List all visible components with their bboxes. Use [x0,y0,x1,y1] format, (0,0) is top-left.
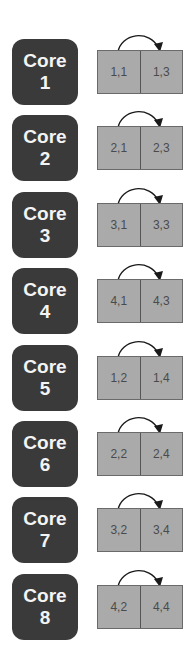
core-badge: Core 2 [12,115,78,181]
curved-arrow-icon [110,25,170,52]
cell-right: 4,3 [140,280,183,322]
core-number: 3 [40,225,51,247]
cell-pair: 2,1 2,3 [97,126,183,170]
cell-pair: 2,2 2,4 [97,432,183,476]
cell-right: 2,3 [140,127,183,169]
core-badge: Core 7 [12,497,78,563]
core-row-8: Core 8 4,2 4,4 [0,574,196,650]
cell-pair: 1,2 1,4 [97,356,183,400]
cell-pair: 1,1 1,3 [97,50,183,94]
cell-left: 2,1 [98,127,140,169]
core-badge: Core 8 [12,574,78,640]
core-badge: Core 4 [12,268,78,334]
cell-right: 3,4 [140,509,183,551]
core-badge: Core 1 [12,39,78,105]
curved-arrow-icon [110,178,170,205]
core-label: Core [23,279,66,301]
curved-arrow-icon [110,483,170,510]
cell-left: 1,2 [98,357,140,399]
core-label: Core [23,126,66,148]
cell-right: 2,4 [140,433,183,475]
cell-right: 4,4 [140,586,183,628]
cell-left: 2,2 [98,433,140,475]
core-number: 7 [40,530,51,552]
core-number: 5 [40,378,51,400]
core-number: 2 [40,148,51,170]
cell-pair: 4,1 4,3 [97,279,183,323]
cell-pair: 4,2 4,4 [97,585,183,629]
cell-left: 4,1 [98,280,140,322]
core-number: 4 [40,301,51,323]
cell-left: 3,2 [98,509,140,551]
curved-arrow-icon [110,254,170,281]
core-label: Core [23,50,66,72]
cell-left: 4,2 [98,586,140,628]
curved-arrow-icon [110,101,170,128]
cell-right: 1,4 [140,357,183,399]
core-label: Core [23,508,66,530]
cell-pair: 3,1 3,3 [97,203,183,247]
cell-left: 1,1 [98,51,140,93]
core-label: Core [23,585,66,607]
cell-left: 3,1 [98,204,140,246]
cell-right: 1,3 [140,51,183,93]
core-label: Core [23,203,66,225]
core-number: 1 [40,72,51,94]
curved-arrow-icon [110,331,170,358]
core-number: 8 [40,607,51,629]
core-badge: Core 3 [12,192,78,258]
cell-pair: 3,2 3,4 [97,508,183,552]
core-label: Core [23,356,66,378]
cell-right: 3,3 [140,204,183,246]
core-number: 6 [40,454,51,476]
curved-arrow-icon [110,407,170,434]
core-badge: Core 6 [12,421,78,487]
core-label: Core [23,432,66,454]
curved-arrow-icon [110,560,170,587]
core-badge: Core 5 [12,345,78,411]
